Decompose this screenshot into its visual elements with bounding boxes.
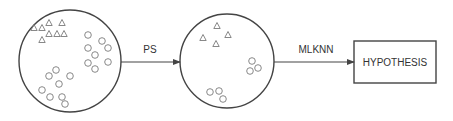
circle-marker [92, 66, 99, 73]
circle-marker [85, 60, 92, 67]
circle-marker [39, 87, 46, 94]
original-dataset-circles [39, 32, 112, 108]
triangle-marker [214, 23, 220, 29]
circle-marker [47, 94, 54, 101]
triangle-marker [200, 35, 206, 41]
circle-marker [105, 59, 112, 66]
circle-marker [255, 65, 262, 72]
circle-marker [56, 81, 63, 88]
circle-marker [46, 73, 53, 80]
selected-dataset-triangles [200, 23, 231, 47]
triangle-marker [39, 25, 45, 31]
selected-dataset-node [180, 14, 274, 108]
triangle-marker [39, 37, 45, 43]
circle-marker [92, 52, 99, 59]
circle-marker [85, 32, 92, 39]
circle-marker [105, 45, 112, 52]
edge-ps: PS [121, 44, 180, 62]
selected-dataset-circles [207, 58, 262, 103]
circle-marker [67, 73, 74, 80]
edge-mlknn: MLKNN [274, 44, 354, 62]
triangle-marker [61, 31, 67, 37]
original-dataset-node [19, 10, 121, 112]
circle-marker [99, 38, 106, 45]
ps-label: PS [143, 44, 157, 55]
ps-mlknn-pipeline-diagram: PS MLKNN HYPOTHESIS [0, 0, 453, 121]
mlknn-label: MLKNN [298, 44, 333, 55]
circle-marker [85, 45, 92, 52]
hypothesis-node: HYPOTHESIS [354, 41, 436, 83]
triangle-marker [59, 20, 65, 26]
circle-marker [249, 58, 256, 65]
triangle-marker [46, 31, 52, 37]
circle-marker [220, 96, 227, 103]
circle-marker [207, 89, 214, 96]
triangle-marker [225, 32, 231, 38]
circle-marker [216, 88, 223, 95]
circle-marker [59, 94, 66, 101]
selected-dataset-circle [180, 14, 274, 108]
circle-marker [247, 68, 254, 75]
triangle-marker [54, 31, 60, 37]
hypothesis-label: HYPOTHESIS [363, 57, 428, 68]
circle-marker [53, 67, 60, 74]
circle-marker [62, 101, 69, 108]
triangle-marker [213, 41, 219, 47]
triangle-marker [46, 20, 52, 26]
